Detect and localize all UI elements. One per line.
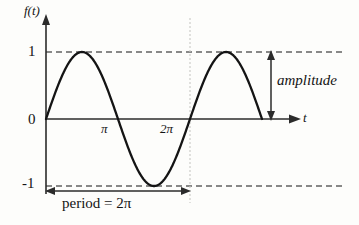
y-axis-arrowhead-icon — [42, 14, 50, 25]
x-axis-label: t — [303, 111, 307, 124]
x-tick-label-two-pi: 2π — [160, 122, 173, 135]
t-axis-arrowhead-icon — [289, 115, 301, 124]
y-tick-label-one: 1 — [28, 44, 36, 59]
amplitude-annotation-label: amplitude — [277, 73, 337, 88]
period-arrow-right-head-icon — [181, 187, 191, 195]
y-tick-label-zero: 0 — [28, 112, 36, 127]
period-annotation-label: period = 2π — [62, 196, 131, 211]
x-tick-label-pi: π — [101, 122, 108, 135]
y-tick-label-negative-one: -1 — [22, 176, 35, 191]
y-axis-label: f(t) — [24, 4, 40, 17]
figure-container: f(t) t 1 0 -1 π 2π amplitude period = 2π — [0, 0, 359, 225]
